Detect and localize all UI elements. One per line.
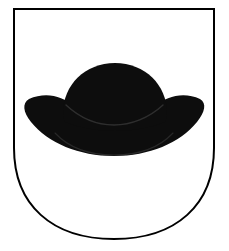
coat-of-arms-canvas: Heraldic shield, white field, charged wi… — [0, 0, 229, 251]
coat-of-arms-image: Heraldic shield, white field, charged wi… — [0, 0, 229, 251]
